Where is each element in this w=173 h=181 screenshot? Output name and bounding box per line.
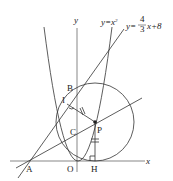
point-a-label: A xyxy=(26,164,33,174)
equal-marks-ip xyxy=(80,107,85,115)
right-angle-mark-i xyxy=(69,108,74,109)
segment-ip xyxy=(67,104,95,122)
svg-text:x+8: x+8 xyxy=(146,21,162,31)
x-axis-label: x xyxy=(145,156,150,166)
origin-label: O xyxy=(67,164,74,174)
point-c-label: C xyxy=(70,127,76,137)
svg-text:y=: y= xyxy=(125,21,136,31)
point-p-dot xyxy=(93,120,97,124)
point-p-label: P xyxy=(97,125,102,135)
fraction-denominator: 3 xyxy=(140,24,145,34)
geometry-diagram: y x y=x2 y= 4 3 x+8 A B C I P O H xyxy=(0,0,173,181)
line-label: y= 4 3 x+8 xyxy=(125,14,162,34)
point-h-label: H xyxy=(91,164,98,174)
fraction-numerator: 4 xyxy=(140,14,145,24)
y-axis-label: y xyxy=(73,15,78,25)
right-angle-mark-h xyxy=(90,156,95,161)
point-b-label: B xyxy=(67,83,73,93)
point-i-label: I xyxy=(62,95,65,105)
parabola-label: y=x2 xyxy=(100,17,118,27)
